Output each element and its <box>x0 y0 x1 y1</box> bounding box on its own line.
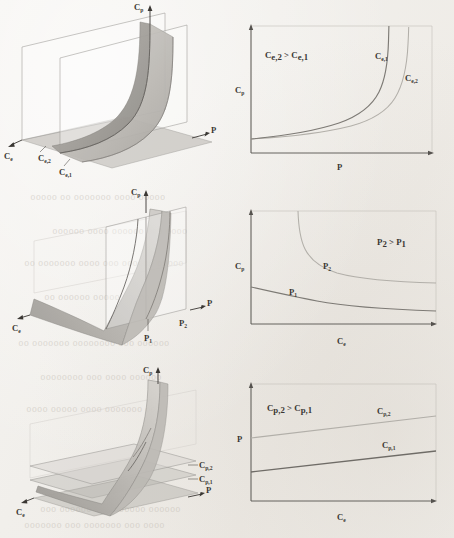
y-axis-arrowhead <box>249 24 253 30</box>
plane-label-cp1: Cp,1 <box>199 474 213 485</box>
axis-label-p: P <box>207 298 212 308</box>
figure-row-1: Cp Ce P Ce,2 Ce,1 <box>0 0 454 179</box>
axis-cp-arrowhead <box>144 190 149 196</box>
axis-ce-arrowhead <box>17 315 23 320</box>
axis-label-ce: Ce <box>337 336 346 347</box>
axis-p-arrowhead <box>200 492 205 497</box>
row3-2d-plot: Cp,2 > Cp,1 Cp,2 Cp,1 P Ce <box>227 358 454 537</box>
curve-ce1 <box>251 26 389 139</box>
plane-label-ce1: Ce,1 <box>59 167 72 178</box>
curve-cp2 <box>251 416 436 438</box>
y-axis-arrowhead <box>249 382 253 388</box>
curve-p1 <box>251 287 436 311</box>
row3-3d-plot: Cp Ce P Cp,2 Cp,1 <box>0 358 227 537</box>
plane-label-p2: P2 <box>179 318 187 329</box>
axis-label-cp: Cp <box>131 187 140 198</box>
axis-label-p: P <box>237 434 242 444</box>
axis-label-ce: Ce <box>12 323 21 334</box>
row2-2d-plot: P2 > P1 P2 P1 Cp Ce <box>227 179 454 358</box>
row1-3d-plot: Cp Ce P Ce,2 Ce,1 <box>0 0 227 179</box>
axis-label-p: P <box>211 125 216 135</box>
y-axis-arrowhead <box>249 209 253 215</box>
plot-frame <box>251 26 432 153</box>
curve-label-ce1: Ce,1 <box>375 51 388 62</box>
curve-label-p1: P1 <box>289 287 297 298</box>
plot-frame <box>251 384 436 501</box>
axis-cp-arrowhead <box>148 5 153 11</box>
annotation-inequality: P2 > P1 <box>377 237 406 249</box>
figure-row-3: Cp Ce P Cp,2 Cp,1 <box>0 358 454 537</box>
row1-2d-plot: Ce,2 > Ce,1 Ce,1 Ce,2 Cp P <box>227 0 454 179</box>
curve-p2 <box>298 211 436 283</box>
plane-label-cp2: Cp,2 <box>199 460 213 471</box>
plane-label-ce2: Ce,2 <box>38 153 51 164</box>
figure-row-2: Cp Ce P P1 P2 P2 > P <box>0 179 454 358</box>
curve-ce2 <box>251 27 409 139</box>
axis-label-cp: Cp <box>235 261 244 272</box>
x-axis-arrowhead <box>428 151 434 155</box>
axis-ce-arrowhead <box>8 142 15 147</box>
annotation-inequality: Ce,2 > Ce,1 <box>265 50 308 62</box>
axis-p-arrowhead <box>205 132 210 137</box>
axis-label-cp: Cp <box>143 365 152 376</box>
curve-label-ce2: Ce,2 <box>405 73 418 84</box>
curve-cp1 <box>251 451 436 472</box>
axis-label-cp: Cp <box>235 85 244 96</box>
leader-ce1 <box>64 159 70 166</box>
leader-ce2 <box>40 146 46 152</box>
annotation-inequality: Cp,2 > Cp,1 <box>267 403 312 415</box>
axis-label-cp: Cp <box>134 2 143 13</box>
axis-label-ce: Ce <box>337 512 346 523</box>
axis-label-ce: Ce <box>16 507 25 518</box>
row2-3d-plot: Cp Ce P P1 P2 <box>0 179 227 358</box>
axis-label-p: P <box>337 162 342 172</box>
axis-label-ce: Ce <box>4 151 13 162</box>
curve-label-cp1: Cp,1 <box>382 440 396 451</box>
plane-label-p1: P1 <box>144 333 152 344</box>
curve-label-p2: P2 <box>323 261 331 272</box>
axis-label-p: P <box>206 485 211 495</box>
plot-frame <box>251 211 436 324</box>
axis-cp-arrowhead <box>156 367 161 373</box>
axis-p-arrowhead <box>201 305 206 310</box>
curve-label-cp2: Cp,2 <box>377 406 391 417</box>
axis-ce-arrowhead <box>21 499 27 504</box>
